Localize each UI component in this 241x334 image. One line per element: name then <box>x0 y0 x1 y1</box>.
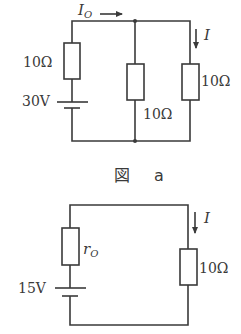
junction-top <box>133 19 137 23</box>
label-right-resistor: 10Ω <box>201 73 230 89</box>
label-source-resistor: 10Ω <box>23 54 52 70</box>
right-resistor <box>182 64 199 100</box>
load-resistor <box>180 249 197 285</box>
top-wire <box>72 21 190 64</box>
label-middle-resistor: 10Ω <box>143 106 172 122</box>
middle-resistor <box>127 64 144 100</box>
internal-resistor <box>62 228 79 265</box>
label-load-resistor: 10Ω <box>199 260 228 276</box>
figure-a-circuit: IO I 10Ω 30V 10Ω 10Ω 図 a <box>22 1 230 185</box>
caption-letter: a <box>154 166 164 185</box>
bottom-wire-b <box>70 285 188 325</box>
source-resistor <box>64 43 80 79</box>
label-source-voltage: 30V <box>22 93 51 109</box>
caption-kanji: 図 <box>114 166 130 185</box>
label-I-branch: I <box>203 26 211 44</box>
label-I0: IO <box>77 1 92 20</box>
label-r0: rO <box>83 240 98 259</box>
circuit-diagrams: IO I 10Ω 30V 10Ω 10Ω 図 a I rO 15V 10Ω <box>0 0 241 334</box>
figure-b-circuit: I rO 15V 10Ω <box>18 205 228 325</box>
label-I-b: I <box>203 209 211 227</box>
label-source-voltage-b: 15V <box>18 280 47 296</box>
junction-bottom <box>133 139 137 143</box>
